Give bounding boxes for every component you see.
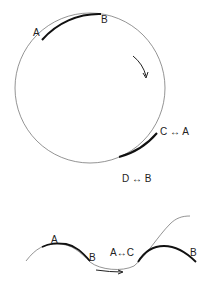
wave-label-b-left: B [89,253,96,263]
arc-a-b [42,14,101,40]
label-a: A [33,28,40,38]
wave-arc-c-b [138,246,196,262]
label-b: B [101,15,108,25]
diagram-canvas [0,0,204,286]
label-c-a: C ↔ A [160,127,189,137]
wave-label-a: A [51,235,58,245]
label-d-b: D ↔ B [122,174,151,184]
wave-arc-a-b [42,243,90,261]
rotation-arrow-icon [133,56,146,76]
wave-label-a-c: A↔C [110,248,134,258]
arc-c-d [119,133,157,157]
wave-label-b-right: B [190,248,197,258]
